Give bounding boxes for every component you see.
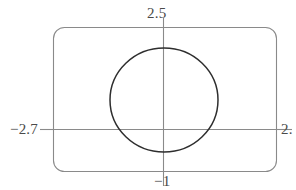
figure-root: 2.5 −2.7 2. −1 <box>0 0 296 190</box>
axis-label-left: −2.7 <box>10 122 38 137</box>
plot-background <box>0 0 296 190</box>
plot-canvas <box>0 0 296 190</box>
axis-label-bottom: −1 <box>154 174 170 189</box>
axis-label-top: 2.5 <box>147 6 166 21</box>
axis-label-right: 2. <box>281 122 293 137</box>
